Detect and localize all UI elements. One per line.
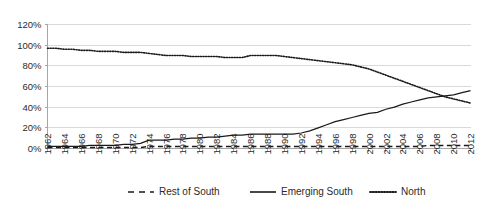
x-tick-label: 1966 [76,133,87,154]
x-tick-label: 2004 [397,133,408,154]
x-axis: 1962196419661968197019721974197619781980… [42,133,476,154]
x-tick-label: 2012 [465,133,476,154]
x-tick-label: 1962 [42,133,53,154]
chart-container: 0%20%40%60%80%100%120% 19621964196619681… [0,0,486,206]
x-tick-label: 1998 [347,133,358,154]
x-tick-label: 1976 [161,133,172,154]
x-tick-label: 1986 [245,133,256,154]
x-tick-label: 1996 [330,133,341,154]
x-tick-label: 1964 [59,133,70,154]
x-tick-label: 1992 [296,133,307,154]
y-tick-label: 60% [22,81,42,92]
y-tick-label: 80% [22,60,42,71]
x-tick-label: 2010 [448,133,459,154]
x-tick-label: 1974 [144,133,155,154]
x-tick-label: 1994 [313,133,324,154]
legend-label-rest-of-south: Rest of South [159,186,220,197]
y-tick-label: 40% [22,102,42,113]
series-group [48,48,471,147]
x-tick-label: 2000 [364,133,375,154]
y-tick-label: 0% [28,143,42,154]
x-tick-label: 1984 [228,133,239,154]
x-tick-label: 2006 [414,133,425,154]
chart-legend: Rest of SouthEmerging SouthNorth [128,186,425,197]
legend-label-north: North [401,186,425,197]
series-line-north [48,48,471,103]
y-tick-label: 120% [17,19,42,30]
x-tick-label: 1990 [279,133,290,154]
x-tick-label: 1980 [194,133,205,154]
x-tick-label: 1970 [110,133,121,154]
y-tick-label: 100% [17,40,42,51]
x-tick-label: 1968 [93,133,104,154]
x-tick-label: 1988 [262,133,273,154]
gridlines [48,25,471,149]
y-tick-label: 20% [22,122,42,133]
line-chart: 0%20%40%60%80%100%120% 19621964196619681… [0,0,486,206]
x-tick-label: 2008 [431,133,442,154]
legend-label-emerging-south: Emerging South [281,186,353,197]
x-tick-label: 2002 [381,133,392,154]
x-tick-label: 1978 [177,133,188,154]
